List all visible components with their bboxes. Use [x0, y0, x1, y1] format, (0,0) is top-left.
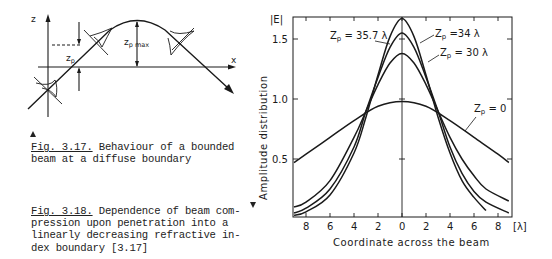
y-tick-label: 1.0 [272, 94, 288, 105]
annotation-zp-34: Zp =34 λ [420, 28, 480, 43]
beam-diagram [28, 14, 236, 117]
x-axis-title: Coordinate across the beam [333, 237, 490, 248]
x-tick-label: 2 [375, 221, 381, 232]
zp-label: zp [66, 53, 75, 65]
annotation-zp-30: Zp = 30 λ [428, 47, 488, 62]
svg-text:Zp =34 λ: Zp =34 λ [435, 28, 480, 41]
svg-text:Zp = 0: Zp = 0 [474, 103, 506, 116]
x-tick-label: 0 [399, 221, 405, 232]
y-tick-label: 0.5 [272, 154, 288, 165]
x-tick-label: 8 [495, 221, 501, 232]
x-tick-label: 4 [351, 221, 357, 232]
z-axis-arrowhead-icon [46, 14, 51, 22]
caption-fig-3-18: Fig. 3.18. Dependence of beam com- press… [31, 205, 240, 254]
x-unit-label: [λ] [513, 221, 527, 232]
x-tick-label: 6 [327, 221, 333, 232]
svg-text:Zp = 30 λ: Zp = 30 λ [440, 47, 488, 60]
y-tick-labels: 0.51.01.5 [272, 34, 288, 165]
x-tick-label: 4 [447, 221, 453, 232]
y-tick-label: 1.5 [272, 34, 288, 45]
x-tick-label: 2 [423, 221, 429, 232]
annotation-zp-0: Zp = 0 [465, 103, 506, 131]
wavefront-profile-3 [168, 28, 194, 55]
margin-marker-down-icon [250, 202, 256, 208]
zpmax-arrow-up-icon [135, 21, 139, 27]
zp-arrow-up-icon [77, 67, 81, 73]
zp-arrow-down-icon [77, 39, 81, 45]
caption-number: Fig. 3.18. [31, 205, 93, 217]
x-axis-arrowhead-icon [228, 65, 236, 70]
caption-fig-3-17: Fig. 3.17. Behaviour of a bounded beam a… [31, 141, 234, 165]
x-axis-label: x [231, 55, 237, 65]
x-tick-label: 8 [303, 221, 309, 232]
y-axis-top-label: |E| [270, 14, 283, 26]
beam-path [28, 21, 228, 110]
annotation-zp-35-7: Zp = 35.7 λ [330, 30, 390, 44]
margin-marker-up-icon [30, 131, 36, 137]
svg-text:Zp = 35.7 λ: Zp = 35.7 λ [330, 30, 387, 43]
curve-series-2 [294, 53, 509, 207]
y-axis-title: Amplitude distribution [258, 75, 269, 200]
chart: 864202468 0.51.01.5 |E| [λ] Coordinate a… [258, 14, 527, 248]
zpmax-arrow-down-icon [135, 61, 139, 67]
caption-number: Fig. 3.17. [31, 141, 93, 153]
x-tick-label: 6 [471, 221, 477, 232]
z-axis-label: z [31, 14, 36, 24]
x-tick-labels: 864202468 [303, 221, 501, 232]
